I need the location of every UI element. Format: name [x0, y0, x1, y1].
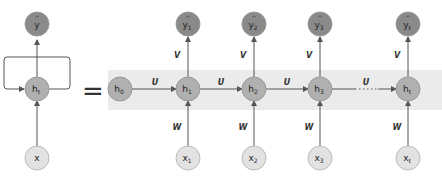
weight-u-label: U	[284, 78, 291, 87]
step-1: V W ^ y1 h1 x1	[173, 12, 200, 170]
input-label: x	[34, 153, 40, 163]
weight-u-label: U	[218, 78, 225, 87]
weight-w-label: W	[173, 123, 183, 132]
step-2: V W ^ y2 h2 x2	[239, 12, 266, 170]
rnn-diagram: y ^ ht x = U U U U h0 V W ^ y1	[0, 0, 442, 179]
unrolled-rnn: U U U U h0 V W ^ y1 h1 x1 V W ^ y2	[108, 12, 420, 170]
weight-v-label: V	[394, 51, 401, 60]
weight-w-label: W	[239, 123, 249, 132]
hat-symbol: ^	[34, 14, 39, 21]
equals-sign: =	[82, 76, 104, 106]
step-t: V W ^ yt ht xt	[393, 12, 420, 170]
weight-v-label: V	[240, 51, 247, 60]
weight-w-label: W	[393, 123, 403, 132]
output-label: y	[34, 20, 40, 30]
weight-v-label: V	[306, 51, 313, 60]
weight-u-label: U	[363, 78, 370, 87]
weight-v-label: V	[174, 51, 181, 60]
weight-u-label: U	[152, 78, 159, 87]
weight-w-label: W	[305, 123, 315, 132]
step-3: V W ^ y3 h3 x3	[305, 12, 332, 170]
folded-rnn: y ^ ht x	[4, 12, 70, 170]
